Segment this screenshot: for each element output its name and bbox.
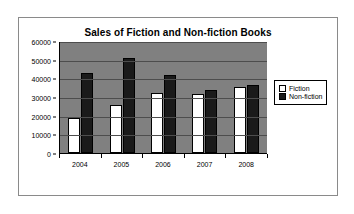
y-axis-tick-label: 20000 <box>32 113 51 120</box>
plot-area <box>59 42 267 154</box>
y-axis-tickmark <box>53 60 56 61</box>
chart-title: Sales of Fiction and Non-fiction Books <box>19 27 337 38</box>
bar-non-fiction-2008[interactable] <box>247 85 259 153</box>
y-axis-tickmark <box>53 135 56 136</box>
gridline <box>60 61 267 62</box>
x-axis-tick-label: 2004 <box>59 161 101 168</box>
chart-frame: Sales of Fiction and Non-fiction Books 6… <box>18 17 338 196</box>
bar-non-fiction-2005[interactable] <box>123 58 135 153</box>
x-axis-tickmarks <box>59 154 267 158</box>
y-axis-tick-label: 30000 <box>32 95 51 102</box>
x-axis-tickmark <box>225 154 226 158</box>
bar-fiction-2008[interactable] <box>234 87 246 153</box>
bar-fiction-2006[interactable] <box>151 93 163 153</box>
y-axis-tickmark <box>53 116 56 117</box>
chart-legend: FictionNon-fiction <box>274 80 327 105</box>
legend-item-fiction[interactable]: Fiction <box>279 85 322 92</box>
x-axis-tickmark <box>184 154 185 158</box>
y-axis: 6000050000400003000020000100000 <box>21 42 55 154</box>
y-axis-tickmark <box>53 98 56 99</box>
legend-label: Non-fiction <box>289 93 322 100</box>
gridline <box>60 117 267 118</box>
gridline <box>60 79 267 80</box>
x-axis-tickmark <box>267 154 268 158</box>
bar-fiction-2005[interactable] <box>110 105 122 153</box>
x-axis-tickmark <box>142 154 143 158</box>
y-axis-tick-label: 50000 <box>32 57 51 64</box>
gridline <box>60 135 267 136</box>
y-axis-tickmark <box>53 154 56 155</box>
x-axis-labels: 20042005200620072008 <box>59 161 267 168</box>
gridline <box>60 42 267 43</box>
y-axis-tickmark <box>53 79 56 80</box>
bar-non-fiction-2006[interactable] <box>164 75 176 153</box>
y-axis-tick-label: 0 <box>47 151 51 158</box>
gridline <box>60 98 267 99</box>
x-axis-tickmark <box>101 154 102 158</box>
bar-non-fiction-2007[interactable] <box>205 90 217 153</box>
x-axis-tick-label: 2006 <box>142 161 184 168</box>
bar-fiction-2007[interactable] <box>192 94 204 153</box>
y-axis-tick-label: 10000 <box>32 132 51 139</box>
legend-label: Fiction <box>289 85 310 92</box>
x-axis-tickmark <box>59 154 60 158</box>
y-axis-tickmark <box>53 42 56 43</box>
legend-item-non-fiction[interactable]: Non-fiction <box>279 93 322 100</box>
fiction-swatch-icon <box>279 85 286 92</box>
y-axis-tick-label: 40000 <box>32 76 51 83</box>
nonfiction-swatch-icon <box>279 93 286 100</box>
plot-region: 6000050000400003000020000100000 <box>59 42 267 154</box>
y-axis-tick-label: 60000 <box>32 39 51 46</box>
x-axis-tick-label: 2005 <box>101 161 143 168</box>
bar-non-fiction-2004[interactable] <box>81 73 93 153</box>
x-axis-tick-label: 2008 <box>225 161 267 168</box>
x-axis-tick-label: 2007 <box>184 161 226 168</box>
